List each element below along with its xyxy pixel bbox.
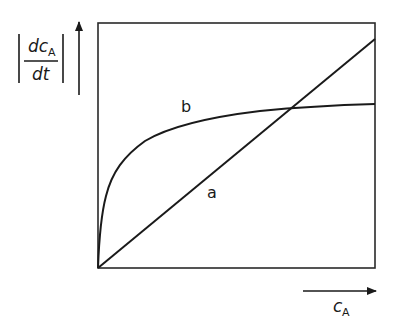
curve-b-line <box>98 104 375 268</box>
curve-a-label: a <box>207 183 217 202</box>
x-axis-label: c A <box>333 296 350 319</box>
rate-diagram: b a dc A dt c A <box>0 0 397 336</box>
y-label-subscript: A <box>48 46 56 59</box>
y-axis-label: dc A dt <box>19 34 63 84</box>
y-label-numerator: dc <box>28 36 49 56</box>
y-label-denominator: dt <box>32 64 51 84</box>
x-label-subscript: A <box>342 306 350 319</box>
curve-b-label: b <box>181 97 191 116</box>
curve-a-line <box>98 39 375 268</box>
